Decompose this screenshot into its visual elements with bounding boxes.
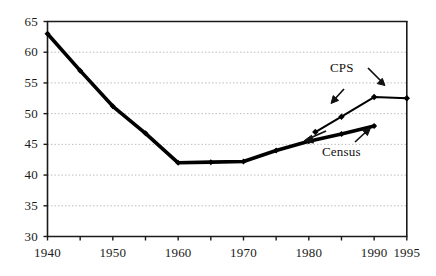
x-tick-label: 1980: [287, 245, 331, 261]
y-tick-label: 50: [8, 106, 38, 122]
plot-background: [47, 21, 407, 236]
x-tick-label: 1950: [91, 245, 135, 261]
y-tick-label: 30: [8, 229, 38, 245]
x-tick-label: 1940: [26, 245, 70, 261]
y-tick-label: 60: [8, 44, 38, 60]
y-tick-label: 35: [8, 198, 38, 214]
census-series-label: Census: [322, 144, 361, 160]
x-tick-label: 1995: [385, 245, 429, 261]
x-tick-label: 1960: [156, 245, 200, 261]
x-tick-label: 1970: [221, 245, 265, 261]
y-tick-label: 45: [8, 136, 38, 152]
chart-container: 3035404550556065 19401950196019701980199…: [0, 0, 436, 276]
cps-series-label: CPS: [330, 60, 354, 76]
line-chart: [0, 0, 436, 276]
y-tick-label: 55: [8, 75, 38, 91]
y-tick-label: 40: [8, 167, 38, 183]
y-tick-label: 65: [8, 14, 38, 30]
